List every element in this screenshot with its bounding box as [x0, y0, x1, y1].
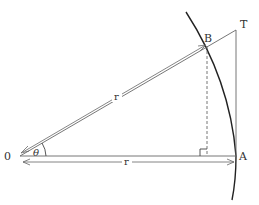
radius-label-OA: r — [124, 156, 129, 167]
line-OT — [20, 30, 236, 156]
point-label-A: A — [238, 150, 248, 163]
point-label-O: 0 — [4, 150, 11, 163]
point-label-T: T — [240, 18, 248, 31]
angle-arc-theta — [42, 143, 46, 156]
angle-label-theta: θ — [33, 147, 39, 158]
right-angle-marker — [200, 149, 207, 156]
point-label-B: B — [204, 32, 212, 45]
geometry-diagram: 0 A B T θ r r — [0, 0, 259, 205]
radius-label-OB: r — [114, 91, 119, 102]
diagram-canvas: 0 A B T θ r r — [0, 0, 259, 205]
